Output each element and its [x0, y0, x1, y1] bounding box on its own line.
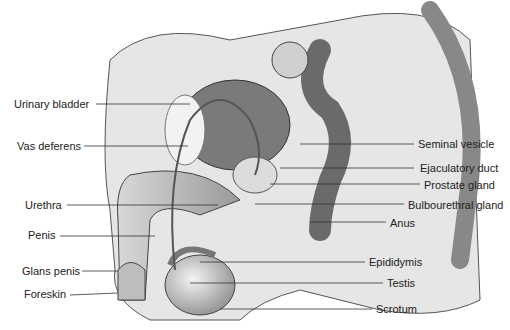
- label-vas-deferens: Vas deferens: [17, 140, 81, 153]
- label-urethra: Urethra: [25, 199, 62, 212]
- label-bulbourethral-gland: Bulbourethral gland: [408, 199, 503, 212]
- label-testis: Testis: [387, 277, 415, 290]
- label-ejaculatory-duct: Ejaculatory duct: [420, 162, 498, 175]
- label-anus: Anus: [390, 217, 415, 230]
- label-penis: Penis: [28, 229, 56, 242]
- label-glans-penis: Glans penis: [22, 265, 80, 278]
- label-epididymis: Epididymis: [369, 256, 422, 269]
- label-urinary-bladder: Urinary bladder: [14, 98, 89, 111]
- anatomy-diagram: Urinary bladder Vas deferens Urethra Pen…: [0, 0, 510, 330]
- label-scrotum: Scrotum: [376, 303, 417, 316]
- label-prostate-gland: Prostate gland: [424, 179, 495, 192]
- label-seminal-vesicle: Seminal vesicle: [418, 138, 494, 151]
- label-foreskin: Foreskin: [24, 288, 66, 301]
